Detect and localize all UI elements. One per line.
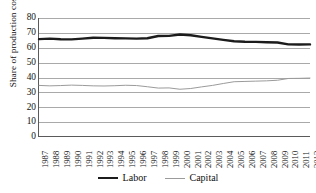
x-tick-label: 2003 xyxy=(215,151,224,168)
x-tick-label: 1997 xyxy=(150,151,159,168)
y-tick-label: 50 xyxy=(27,58,36,67)
legend-swatch-labor-icon xyxy=(98,177,118,179)
x-tick-label: 1992 xyxy=(96,151,105,168)
x-tick-label: 2008 xyxy=(270,151,279,168)
y-tick-label: 30 xyxy=(27,88,36,97)
x-tick-label: 1989 xyxy=(63,151,72,168)
x-tick-label: 1996 xyxy=(139,151,148,168)
x-tick-label: 2009 xyxy=(281,151,290,168)
x-tick-label: 2002 xyxy=(204,151,213,168)
plot-area xyxy=(38,18,310,137)
x-tick-label: 2010 xyxy=(291,151,300,168)
x-tick-label: 2011 xyxy=(302,151,311,168)
x-tick-label: 1995 xyxy=(128,151,137,168)
x-tick-label: 2012 xyxy=(313,151,316,168)
x-tick-label: 1999 xyxy=(172,151,181,168)
legend-label-labor: Labor xyxy=(123,173,147,183)
x-tick-label: 1993 xyxy=(106,151,115,168)
x-tick-label: 2001 xyxy=(194,151,203,168)
x-tick-label: 2006 xyxy=(248,151,257,168)
x-tick-label: 2004 xyxy=(226,151,235,168)
y-tick-label: 70 xyxy=(27,28,36,37)
y-tick-label: 80 xyxy=(27,13,36,22)
legend-item-labor: Labor xyxy=(98,173,147,183)
chart-legend: Labor Capital xyxy=(0,173,316,183)
x-axis-tick-labels: 1987198819891990199119921993199419951996… xyxy=(38,138,310,172)
x-tick-label: 2007 xyxy=(259,151,268,168)
x-tick-label: 1990 xyxy=(74,151,83,168)
x-tick-label: 1988 xyxy=(52,151,61,168)
y-tick-label: 60 xyxy=(27,43,36,52)
series-line-labor xyxy=(39,35,310,45)
legend-swatch-capital-icon xyxy=(165,178,185,179)
legend-label-capital: Capital xyxy=(190,173,219,183)
series-line-capital xyxy=(39,78,310,89)
y-tick-label: 20 xyxy=(27,103,36,112)
legend-item-capital: Capital xyxy=(165,173,219,183)
x-tick-label: 1987 xyxy=(41,151,50,168)
y-tick-label: 10 xyxy=(27,117,36,126)
x-tick-label: 1991 xyxy=(85,151,94,168)
chart-container: Share of production costs (%) 8070605040… xyxy=(0,0,316,193)
y-axis-tick-labels: 80706050403020100 xyxy=(14,14,36,138)
x-tick-label: 1994 xyxy=(117,151,126,168)
x-tick-label: 2000 xyxy=(183,151,192,168)
x-tick-label: 2005 xyxy=(237,151,246,168)
x-tick-label: 1998 xyxy=(161,151,170,168)
series-svg xyxy=(39,18,310,136)
y-tick-label: 0 xyxy=(31,132,36,141)
y-tick-label: 40 xyxy=(27,73,36,82)
